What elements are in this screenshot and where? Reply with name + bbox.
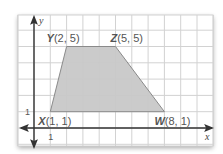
vertex-label-y: Y(2, 5) — [47, 32, 80, 44]
vertex-label-w: W(8, 1) — [154, 115, 190, 127]
x-axis-label: x — [204, 131, 210, 142]
vertex-coords: (1, 1) — [46, 115, 72, 127]
vertex-coords: (2, 5) — [54, 32, 80, 44]
y-axis-label: y — [38, 15, 44, 26]
vertex-coords: (5, 5) — [117, 32, 143, 44]
vertex-label-z: Z(5, 5) — [110, 32, 143, 44]
vertex-label-x: X(1, 1) — [37, 115, 71, 127]
x-tick-label-1: 1 — [48, 132, 53, 142]
vertex-coords: (8, 1) — [165, 115, 191, 127]
y-tick-label-1: 1 — [25, 107, 30, 117]
coordinate-plane: x y 1 1 X(1, 1)Y(2, 5)Z(5, 5)W(8, 1) — [0, 0, 223, 154]
